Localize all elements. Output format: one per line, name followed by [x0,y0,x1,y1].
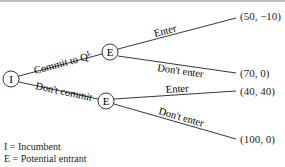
payoff-commit-enter: (50, −10) [240,10,281,22]
node-incumbent: I [3,71,19,87]
legend-row-incumbent: I = Incumbent [4,141,87,153]
payoff-commit-dont-enter: (70, 0) [240,67,269,79]
edge-upper-enter [118,18,236,49]
legend: I = Incumbent E = Potential entrant [4,141,87,165]
edge-label-commit: Commit to QL [32,49,93,76]
node-entrant-upper: E [102,44,118,60]
node-entrant-upper-label: E [107,46,114,58]
legend-text: = Potential entrant [13,153,87,164]
legend-text: = Incumbent [10,141,61,152]
node-entrant-lower-label: E [103,95,110,107]
node-entrant-lower: E [98,93,114,109]
legend-row-entrant: E = Potential entrant [4,153,87,165]
game-tree-figure: I E E Commit to QL Don't commit Enter Do… [0,0,285,167]
edge-label-lower-enter: Enter [165,82,189,95]
node-incumbent-label: I [9,73,13,85]
payoff-dont-commit-enter: (40, 40) [240,85,275,97]
legend-symbol: E [4,153,10,164]
edge-label-dont-commit: Don't commit [35,80,94,103]
edge-label-upper-dont-enter: Don't enter [157,62,205,79]
payoff-dont-commit-dont-enter: (100, 0) [240,133,275,145]
legend-symbol: I [4,141,7,152]
edge-label-lower-dont-enter: Don't enter [157,105,205,129]
